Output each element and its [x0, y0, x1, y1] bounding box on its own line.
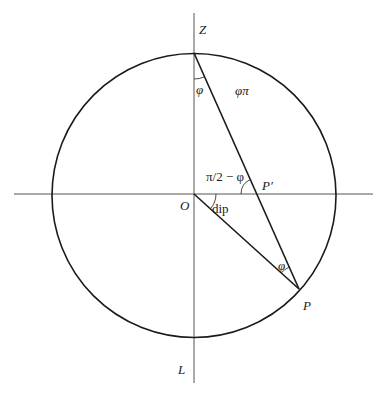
label-o: O	[180, 198, 190, 213]
label-phi-p: φ	[278, 258, 285, 273]
label-z: Z	[199, 22, 207, 37]
phi-angle-arc-top	[194, 77, 205, 79]
diagram-canvas: Z L O P P′ φ φπ π/2 − φ dip φ	[0, 0, 384, 394]
label-p: P	[302, 298, 311, 313]
origin-to-p-line	[194, 194, 299, 289]
label-pi-half-minus-phi: π/2 − φ	[206, 169, 244, 184]
label-l: L	[177, 362, 185, 377]
label-phi-top: φ	[196, 82, 203, 97]
label-pprime: P′	[261, 178, 273, 193]
label-dip: dip	[212, 201, 229, 216]
label-phi-pi: φπ	[235, 83, 249, 98]
